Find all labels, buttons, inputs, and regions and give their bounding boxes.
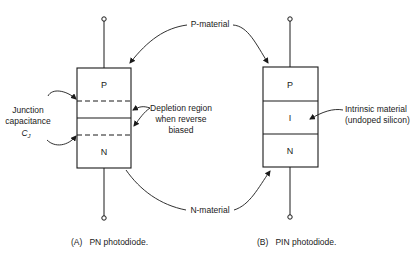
junction-capacitance-label-2: capacitance bbox=[5, 116, 51, 126]
n-material-label: N-material bbox=[190, 205, 229, 215]
pn-photodiode: P N Junction capacitance CJ Depletion re… bbox=[5, 17, 212, 247]
junction-capacitance-symbol: CJ bbox=[21, 128, 31, 139]
pn-top-terminal-icon bbox=[102, 17, 106, 21]
photodiode-diagram: P N Junction capacitance CJ Depletion re… bbox=[0, 0, 416, 253]
p-material-arrow-right-icon bbox=[233, 25, 268, 63]
pn-layer-p: P bbox=[101, 80, 107, 90]
depletion-lower-arrow-icon bbox=[134, 108, 150, 126]
pin-caption: (B) PIN photodiode. bbox=[257, 237, 336, 247]
pin-bottom-terminal-icon bbox=[288, 215, 292, 219]
intrinsic-material-label-1: Intrinsic material bbox=[345, 104, 407, 114]
junction-upper-arrow-icon bbox=[48, 91, 76, 99]
junction-capacitance-label-1: Junction bbox=[12, 105, 44, 115]
p-material-arrow-left-icon bbox=[130, 25, 187, 63]
n-material-arrow-right-icon bbox=[234, 171, 270, 210]
pin-layer-n: N bbox=[287, 146, 294, 156]
depletion-region-label-2: when reverse bbox=[154, 114, 206, 124]
pin-layer-i: I bbox=[289, 113, 292, 123]
pin-layer-p: P bbox=[287, 80, 293, 90]
pin-photodiode: P I N Intrinsic material (undoped silico… bbox=[257, 17, 410, 247]
p-material-label: P-material bbox=[191, 19, 230, 29]
depletion-region-label-1: Depletion region bbox=[150, 103, 212, 113]
pn-layer-n: N bbox=[101, 147, 108, 157]
depletion-region-label-3: biased bbox=[168, 125, 193, 135]
intrinsic-material-label-2: (undoped silicon) bbox=[345, 115, 410, 125]
pin-top-terminal-icon bbox=[288, 17, 292, 21]
n-material-line-left bbox=[126, 170, 186, 210]
pn-bottom-terminal-icon bbox=[102, 216, 106, 220]
intrinsic-arrow-icon bbox=[310, 109, 343, 119]
junction-lower-arrow-icon bbox=[47, 136, 76, 145]
pn-caption: (A) PN photodiode. bbox=[71, 237, 148, 247]
